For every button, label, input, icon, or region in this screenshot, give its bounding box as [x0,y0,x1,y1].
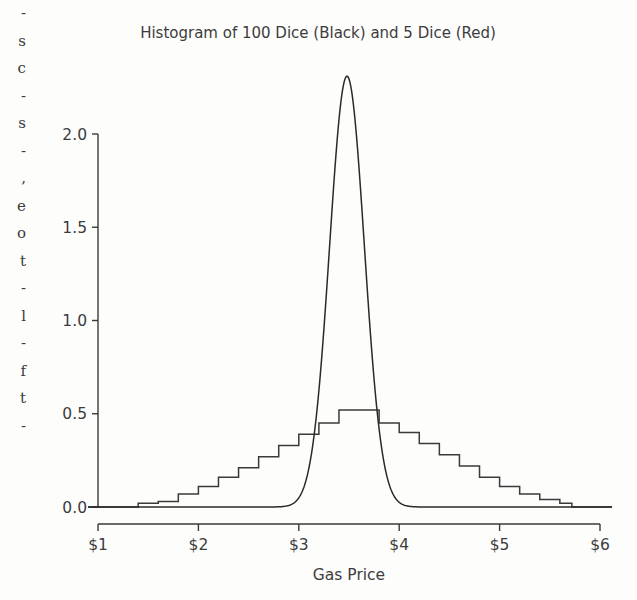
y-tick-label: 1.0 [62,312,87,330]
chart-title: Histogram of 100 Dice (Black) and 5 Dice… [140,24,496,42]
histogram-chart: Histogram of 100 Dice (Black) and 5 Dice… [0,0,637,600]
scan-edge-artifact: - s c - s - , e o t - l - f t - [0,0,30,600]
y-axis-ticks: 0.00.51.01.52.0 [62,126,98,517]
x-tick-label: $6 [590,536,610,554]
x-tick-label: $5 [490,536,510,554]
x-tick-label: $3 [289,536,309,554]
y-tick-label: 0.0 [62,499,87,517]
y-tick-label: 2.0 [62,126,87,144]
x-axis-ticks: $1$2$3$4$5$6 [88,524,610,554]
y-tick-label: 1.5 [62,219,87,237]
x-tick-label: $4 [389,536,409,554]
series-line-histogram [88,410,612,507]
x-tick-label: $2 [189,536,209,554]
y-tick-label: 0.5 [62,405,87,423]
chart-series-group [88,76,612,507]
y-axis: 0.00.51.01.52.0 [62,126,98,517]
series-line-density [88,76,612,507]
x-tick-label: $1 [88,536,108,554]
x-axis: $1$2$3$4$5$6 [88,524,610,554]
x-axis-label: Gas Price [313,566,385,584]
figure-canvas: - s c - s - , e o t - l - f t - Histogra… [0,0,637,600]
